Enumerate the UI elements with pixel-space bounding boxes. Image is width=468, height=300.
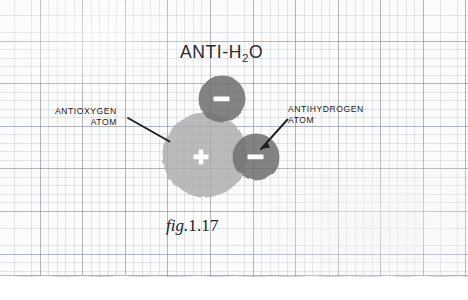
callout-antioxygen-line2: ATOM xyxy=(55,117,117,128)
figure-caption-prefix: fig. xyxy=(166,216,188,235)
figure-caption: fig.1.17 xyxy=(166,216,219,236)
figure-title: ANTI-H2O xyxy=(180,42,263,63)
figure-title-suffix: O xyxy=(249,42,263,62)
callout-antihydrogen: ANTIHYDROGEN ATOM xyxy=(288,104,364,127)
callout-antihydrogen-line1: ANTIHYDROGEN xyxy=(288,104,364,115)
callout-antioxygen-line1: ANTIOXYGEN xyxy=(55,106,117,117)
figure-title-main: ANTI-H xyxy=(180,42,242,62)
callout-antioxygen: ANTIOXYGEN ATOM xyxy=(55,106,117,129)
figure-canvas: ANTI-H2O ANTIOXYGEN ATOM ANTIHYDROGEN AT… xyxy=(0,0,468,300)
figure-title-subscript: 2 xyxy=(242,52,249,64)
callout-antihydrogen-line2: ATOM xyxy=(288,115,364,126)
figure-caption-number: 1.17 xyxy=(188,216,219,235)
